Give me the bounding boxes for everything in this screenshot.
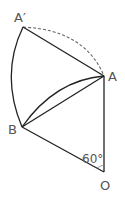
segment-a-b	[22, 76, 104, 127]
label-b: B	[8, 122, 17, 137]
label-a: A	[108, 69, 117, 84]
label-angle-60: 60°	[82, 152, 103, 166]
geometry-diagram: A′ A B O 60°	[0, 0, 125, 197]
label-o: O	[100, 178, 110, 193]
segment-a-prime-a	[23, 27, 104, 76]
arc-a-prime-b	[11, 27, 23, 127]
label-a-prime: A′	[14, 10, 26, 25]
